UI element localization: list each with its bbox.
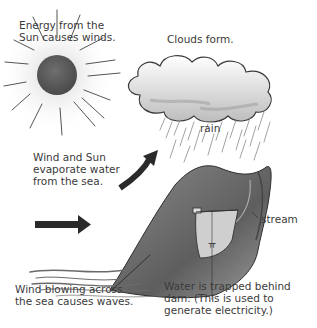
cloud-icon bbox=[128, 56, 271, 122]
label-waves: Wind blowing across the sea causes waves… bbox=[15, 283, 133, 307]
label-line: from the sea. bbox=[33, 175, 120, 187]
label-line: the sea causes waves. bbox=[15, 295, 133, 307]
label-line: dam. (This is used to bbox=[164, 292, 291, 304]
label-line: generate electricity.) bbox=[164, 304, 291, 316]
label-evaporate: Wind and Sun evaporate water from the se… bbox=[33, 151, 120, 187]
label-line: Energy from the bbox=[19, 19, 116, 31]
mountain-illustration bbox=[110, 166, 271, 298]
right-arrow-icon bbox=[35, 215, 91, 234]
label-sun-energy: Energy from the Sun causes winds. bbox=[19, 19, 116, 43]
label-line: evaporate water bbox=[33, 163, 120, 175]
label-line: Wind blowing across bbox=[15, 283, 133, 295]
curved-arrow-icon bbox=[120, 150, 158, 188]
label-clouds: Clouds form. bbox=[167, 33, 234, 45]
label-rain: rain bbox=[200, 122, 220, 134]
label-line: Wind and Sun bbox=[33, 151, 120, 163]
label-line: Sun causes winds. bbox=[19, 31, 116, 43]
label-line: Water is trapped behind bbox=[164, 280, 291, 292]
label-dam: Water is trapped behind dam. (This is us… bbox=[164, 280, 291, 316]
svg-text:ㅠ: ㅠ bbox=[208, 240, 216, 250]
label-stream: stream bbox=[261, 213, 298, 225]
